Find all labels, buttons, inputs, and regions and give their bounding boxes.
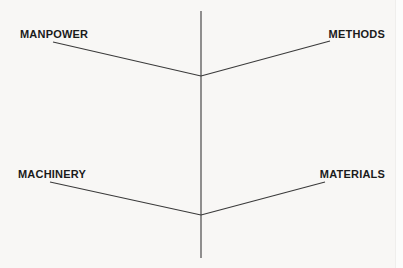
fishbone-skeleton <box>0 0 403 268</box>
category-label-methods: METHODS <box>329 29 385 40</box>
category-label-materials: MATERIALS <box>320 169 385 180</box>
branch-line-methods <box>201 41 330 76</box>
category-label-manpower: MANPOWER <box>20 29 88 40</box>
branch-line-materials <box>201 182 325 215</box>
branch-line-machinery <box>50 182 201 215</box>
branch-line-manpower <box>53 42 201 76</box>
fishbone-diagram: MANPOWER METHODS MACHINERY MATERIALS <box>0 0 403 268</box>
category-label-machinery: MACHINERY <box>18 169 86 180</box>
